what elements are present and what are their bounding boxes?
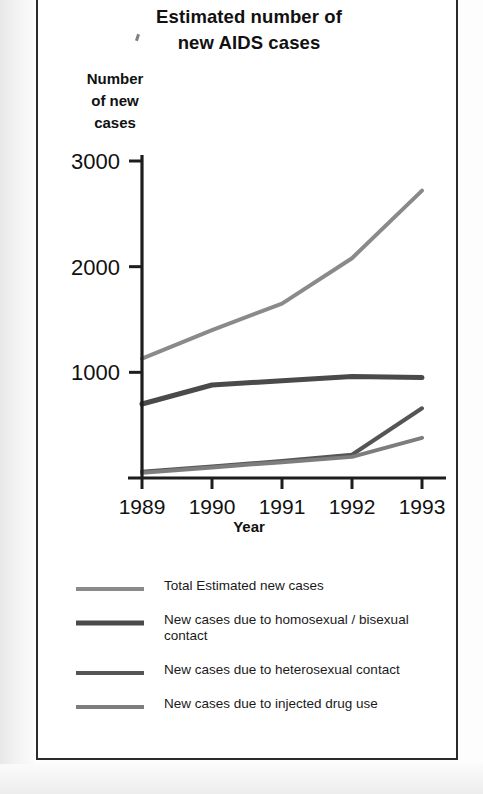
series-group	[142, 191, 422, 473]
page-edge-shading-bottom	[0, 764, 483, 794]
page-edge-shading-left	[0, 0, 34, 794]
legend-item-label: New cases due to injected drug use	[164, 696, 378, 712]
x-axis-title: Year	[38, 518, 460, 535]
legend-item: New cases due to homosexual / bisexual c…	[76, 612, 456, 644]
y-tick-label: 3000	[71, 149, 120, 174]
series-line	[142, 377, 422, 404]
legend-item: New cases due to heterosexual contact	[76, 662, 456, 678]
chart-legend: Total Estimated new cases New cases due …	[76, 578, 456, 730]
legend-item: Total Estimated new cases	[76, 578, 456, 594]
figure-frame: Estimated number of new AIDS cases Numbe…	[36, 0, 458, 760]
line-chart-plot: 300020001000 19891990199119921993	[38, 0, 460, 558]
x-tick-label-group: 19891990199119921993	[119, 495, 446, 518]
legend-swatch-icon	[76, 703, 144, 711]
x-tick-label: 1991	[259, 495, 306, 518]
x-tick-label: 1990	[189, 495, 236, 518]
y-tick-label-group: 300020001000	[71, 149, 120, 385]
y-tick-label: 1000	[71, 360, 120, 385]
chart-svg: 300020001000 19891990199119921993	[38, 0, 460, 558]
legend-item: New cases due to injected drug use	[76, 696, 456, 712]
legend-item-label: New cases due to heterosexual contact	[164, 662, 400, 678]
series-line	[142, 191, 422, 359]
x-tick-label: 1989	[119, 495, 166, 518]
x-tick-label: 1992	[329, 495, 376, 518]
y-tick-label: 2000	[71, 255, 120, 280]
legend-swatch-icon	[76, 619, 144, 627]
legend-swatch-icon	[76, 669, 144, 677]
legend-swatch-icon	[76, 585, 144, 593]
legend-item-label: New cases due to homosexual / bisexual c…	[164, 612, 454, 644]
axes-group	[128, 155, 446, 489]
x-tick-label: 1993	[399, 495, 446, 518]
legend-item-label: Total Estimated new cases	[164, 578, 324, 594]
